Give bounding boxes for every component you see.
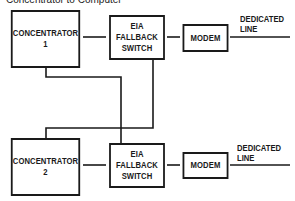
eia-fallback-switch-2-box: EIA FALLBACK SWITCH	[109, 143, 165, 188]
modem-1-box: MODEM	[183, 24, 229, 52]
concentrator-2-box: CONCENTRATOR 2	[11, 138, 80, 196]
dedicated-line-2-label-line1: DEDICATED	[237, 143, 281, 153]
modem-2-label: MODEM	[191, 160, 221, 171]
dedicated-line-1-label-line2: LINE	[240, 24, 284, 34]
conc1-to-switch2-line	[46, 67, 121, 143]
concentrator-1-box: CONCENTRATOR 1	[11, 10, 80, 68]
switch-2-label-line2: FALLBACK	[116, 160, 158, 171]
switch1-to-conc2-line	[46, 59, 153, 138]
switch-1-label-line2: FALLBACK	[116, 32, 158, 43]
dedicated-line-1-label: DEDICATED LINE	[240, 14, 284, 34]
concentrator-2-label: CONCENTRATOR	[13, 156, 78, 167]
eia-fallback-switch-1-box: EIA FALLBACK SWITCH	[109, 15, 165, 60]
switch-2-label-line1: EIA	[130, 149, 143, 160]
dedicated-line-2-label-line2: LINE	[237, 153, 281, 163]
concentrator-2-number: 2	[43, 167, 47, 178]
switch-1-label-line3: SWITCH	[122, 43, 153, 54]
modem-1-label: MODEM	[191, 33, 221, 44]
modem-2-box: MODEM	[183, 152, 229, 179]
concentrator-1-label: CONCENTRATOR	[13, 28, 78, 39]
dedicated-line-1-label-line1: DEDICATED	[240, 14, 284, 24]
dedicated-line-2-label: DEDICATED LINE	[237, 143, 281, 163]
switch-1-label-line1: EIA	[130, 21, 143, 32]
concentrator-1-number: 1	[43, 39, 47, 50]
switch-2-label-line3: SWITCH	[122, 171, 153, 182]
